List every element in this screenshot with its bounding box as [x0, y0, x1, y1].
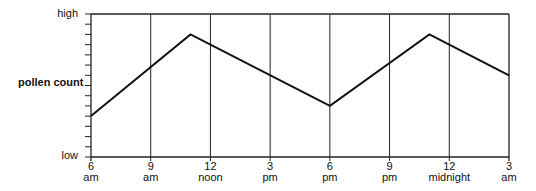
- x-tick-label: 12noon: [180, 161, 240, 183]
- pollen-count-line: [91, 34, 509, 116]
- x-tick-period: pm: [360, 172, 420, 183]
- x-tick-label: 12midnight: [419, 161, 479, 183]
- y-label-low: low: [40, 149, 78, 161]
- x-tick-period: am: [479, 172, 536, 183]
- x-tick-period: am: [61, 172, 121, 183]
- x-tick-label: 6pm: [300, 161, 360, 183]
- x-tick-period: noon: [180, 172, 240, 183]
- x-tick-label: 3pm: [240, 161, 300, 183]
- y-axis-title: pollen count: [18, 76, 83, 88]
- x-tick-label: 3am: [479, 161, 536, 183]
- y-label-high: high: [40, 7, 78, 19]
- x-tick-label: 9pm: [360, 161, 420, 183]
- x-tick-period: am: [121, 172, 181, 183]
- x-tick-period: midnight: [419, 172, 479, 183]
- x-tick-label: 6am: [61, 161, 121, 183]
- x-tick-period: pm: [300, 172, 360, 183]
- x-tick-label: 9am: [121, 161, 181, 183]
- x-tick-period: pm: [240, 172, 300, 183]
